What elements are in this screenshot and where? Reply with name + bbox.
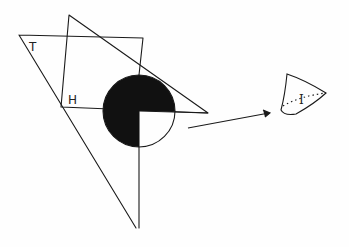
label-i: I [299,93,304,107]
label-h: H [68,93,77,107]
circle-three-quarter [103,75,208,147]
label-t: T [29,40,36,54]
sketch-drawing [0,0,349,247]
sketch-canvas: T H I [0,0,349,247]
